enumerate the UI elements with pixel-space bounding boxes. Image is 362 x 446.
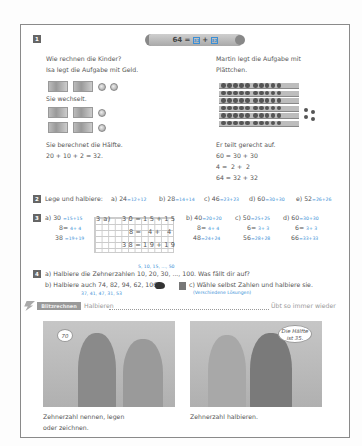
counter-dot <box>233 113 238 118</box>
illustration-right: Die Hälfte ist 35. <box>190 321 322 407</box>
ex1-half-text: Sie berechnet die Hälfte. <box>46 141 123 148</box>
counter-dot <box>271 98 276 103</box>
counter-dot <box>245 91 250 96</box>
ex3-d-row2: 6= 3+ 3 <box>295 224 317 231</box>
counter-dot <box>221 91 226 96</box>
ex1-martin-text-2: Plättchen. <box>216 66 247 73</box>
counter-dot <box>233 91 238 96</box>
ex4-b-text: b) Halbiere auch 74, 82, 94, 62, 106. <box>45 281 159 288</box>
counter-dot <box>259 91 264 96</box>
caption-left-2: oder zeichnen. <box>43 424 89 431</box>
ex4-c-answer: (Verschiedene Lösungen) <box>193 290 251 295</box>
ten-strip <box>219 106 299 112</box>
counter-dot <box>265 91 270 96</box>
counter-dot <box>259 83 264 88</box>
counter-dot <box>233 98 238 103</box>
counter-dot <box>239 106 244 111</box>
boy-figure <box>250 333 292 407</box>
ex1-split-calc-2: 4 = 2 + 2 <box>216 163 250 170</box>
counter-dot <box>233 83 238 88</box>
ten-strip <box>219 121 299 127</box>
caption-right-1: Zehnerzahl halbieren. <box>190 413 258 420</box>
flash-right-text: Übt so immer wieder <box>271 302 336 309</box>
ex3-d-row3: 66=33+33 <box>291 234 318 241</box>
euro-note-10-icon <box>73 107 93 118</box>
euro-note-10-icon <box>73 81 93 92</box>
counter-dot <box>245 83 250 88</box>
ex3-c-row2: 6= 3+ 3 <box>247 224 269 231</box>
exercise-1-badge: 1 <box>33 35 41 43</box>
ex4-c-text: c) Wähle selbst Zahlen und halbiere sie. <box>189 281 313 288</box>
exercise-4-badge: 4 <box>33 270 41 278</box>
counter-dot <box>239 113 244 118</box>
ex4-b-answer: 37, 41, 47, 31, 53 <box>81 291 122 296</box>
counter-dot <box>239 98 244 103</box>
boy-figure <box>123 339 163 407</box>
counter-dot <box>253 106 258 111</box>
counter-dot <box>221 121 226 126</box>
ex3-b-row2: 8= 4+ 4 <box>197 224 219 231</box>
ex1-split-calc-3: 64 = 32 + 32 <box>216 174 258 181</box>
counter-dot <box>277 121 282 126</box>
exercise-1-banner: 64 = 32 + 32 <box>149 34 241 46</box>
counter-dot <box>277 106 282 111</box>
counter-dot <box>271 83 276 88</box>
ten-strip <box>219 113 299 119</box>
illustration-left: 70 <box>43 321 175 407</box>
euro-coin-icon <box>98 124 106 132</box>
lightning-icon <box>23 301 35 311</box>
counter-dot <box>271 106 276 111</box>
ex2-prompt: Lege und halbiere: <box>45 195 103 202</box>
counter-dot <box>253 98 258 103</box>
euro-note-20-icon <box>48 107 68 118</box>
counter-dot <box>259 98 264 103</box>
ex3-b-row3: 48=24+24 <box>193 234 220 241</box>
exercise-3-badge: 3 <box>33 214 41 222</box>
counter-dot <box>245 98 250 103</box>
euro-note-50-icon <box>48 81 68 92</box>
counter-dot <box>245 121 250 126</box>
flash-dotted-line <box>109 309 269 310</box>
euro-coin-icon <box>110 83 118 91</box>
ex1-question: Wie rechnen die Kinder? <box>46 55 121 62</box>
flash-topic: Halbieren <box>84 302 114 309</box>
counter-dot <box>227 83 232 88</box>
ex1-split-text: Er teilt gerecht auf. <box>216 141 276 148</box>
ten-strip <box>219 98 299 104</box>
counter-dot <box>259 113 264 118</box>
counter-dot <box>253 83 258 88</box>
counter-dot <box>221 106 226 111</box>
caption-left-1: Zehnerzahl nennen, legen <box>43 413 124 420</box>
counter-dot <box>227 91 232 96</box>
counter-dot <box>221 98 226 103</box>
worksheet-page: 1 64 = 32 + 32 Wie rechnen die Kinder? I… <box>20 24 350 438</box>
counter-dot <box>239 83 244 88</box>
counter-dot <box>265 106 270 111</box>
hand-icon <box>155 282 165 289</box>
ten-strip <box>219 83 299 89</box>
counter-dot <box>239 121 244 126</box>
counter-dot <box>227 113 232 118</box>
counter-dot <box>265 121 270 126</box>
ex2-item-d: d) 60=30+30 <box>249 195 285 202</box>
grid-label: 3 a) <box>96 215 111 223</box>
counter-dot <box>221 83 226 88</box>
counter-dot <box>239 91 244 96</box>
ex1-half-calc: 20 + 10 + 2 = 32. <box>46 152 103 159</box>
ex2-item-e: e) 52=26+26 <box>296 195 331 202</box>
banner-equation: 64 = <box>172 36 190 44</box>
banner-answer-box-2: 32 <box>211 37 218 44</box>
ex3-d: d) 60=30+30 <box>283 214 319 221</box>
counter-dot <box>271 91 276 96</box>
ex3-c: c) 50=25+25 <box>235 214 270 221</box>
counter-dot <box>271 113 276 118</box>
counter-dot <box>277 113 282 118</box>
ex3-a-row1: a) 30 =15+15 <box>45 214 82 221</box>
ex3-c-row3: 56=28+28 <box>243 234 270 241</box>
ex1-exchange-text: Sie wechselt. <box>46 95 87 102</box>
counter-dot <box>259 121 264 126</box>
ex1-martin-text: Martin legt die Aufgabe mit <box>216 55 301 62</box>
flash-label: Blitzrechnen <box>37 302 81 310</box>
euro-note-20-icon <box>48 122 68 133</box>
counter-dot <box>227 98 232 103</box>
